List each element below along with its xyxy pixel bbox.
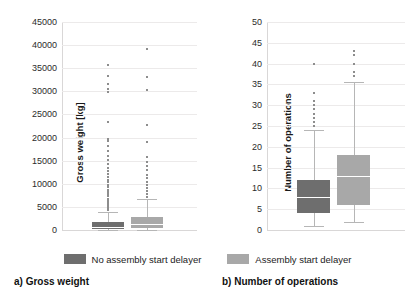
box-delayer — [131, 217, 163, 228]
gridline — [62, 207, 197, 208]
legend-label-delayer: Assembly start delayer — [255, 254, 351, 265]
outlier-point — [146, 177, 148, 179]
y-axis-tick-label: 25000 — [32, 109, 57, 119]
outlier-point — [353, 63, 355, 65]
outlier-point — [146, 161, 148, 163]
outlier-point — [107, 145, 109, 147]
gridline — [267, 126, 405, 127]
outlier-point — [107, 203, 109, 205]
outlier-point — [107, 198, 109, 200]
whisker-lower — [314, 213, 315, 225]
outlier-point — [107, 75, 109, 77]
y-axis-tick-label: 10000 — [32, 179, 57, 189]
gridline — [267, 43, 405, 44]
whisker-cap-lower — [137, 230, 156, 231]
outlier-point — [107, 88, 109, 90]
outlier-point — [107, 170, 109, 172]
gridline — [62, 22, 197, 23]
median-line — [297, 197, 330, 198]
gridline — [267, 64, 405, 65]
legend-swatch-delayer — [227, 254, 249, 264]
y-axis-line — [62, 22, 63, 230]
gridline — [62, 230, 197, 231]
gridline — [62, 161, 197, 162]
outlier-point — [107, 201, 109, 203]
y-axis-tick-label: 25 — [252, 121, 262, 131]
outlier-point — [313, 117, 315, 119]
plot-area-number-of-operations: Number of operations 0510152025303540455… — [267, 22, 405, 230]
outlier-point — [146, 156, 148, 158]
y-axis-tick-label: 30 — [252, 100, 262, 110]
whisker-cap-upper — [137, 199, 156, 200]
gridline — [62, 138, 197, 139]
outlier-point — [107, 163, 109, 165]
y-axis-tick-label: 35 — [252, 79, 262, 89]
outlier-point — [146, 48, 148, 50]
outlier-point — [313, 100, 315, 102]
whisker-cap-upper — [344, 82, 364, 83]
y-axis-tick-label: 45 — [252, 38, 262, 48]
y-axis-tick-label: 5000 — [37, 202, 57, 212]
outlier-point — [353, 71, 355, 73]
outlier-point — [146, 193, 148, 195]
whisker-cap-lower — [344, 222, 364, 223]
outlier-point — [107, 159, 109, 161]
gridline — [62, 45, 197, 46]
outlier-point — [107, 179, 109, 181]
outlier-point — [107, 207, 109, 209]
whisker-upper — [354, 82, 355, 155]
plot-area-gross-weight: Gross weight [kg] 0500010000150002000025… — [62, 22, 197, 230]
y-axis-tick-label: 20000 — [32, 133, 57, 143]
gridline — [62, 114, 197, 115]
outlier-point — [107, 173, 109, 175]
y-axis-tick-label: 30000 — [32, 86, 57, 96]
gridline — [62, 91, 197, 92]
outlier-point — [353, 54, 355, 56]
outlier-point — [313, 113, 315, 115]
caption-a: a) Gross weight — [14, 276, 89, 287]
outlier-point — [107, 205, 109, 207]
outlier-point — [353, 75, 355, 77]
outlier-point — [146, 187, 148, 189]
outlier-point — [313, 125, 315, 127]
y-axis-tick-label: 35000 — [32, 63, 57, 73]
y-axis-tick-label: 0 — [52, 225, 57, 235]
outlier-point — [313, 121, 315, 123]
outlier-point — [313, 92, 315, 94]
y-axis-tick-label: 50 — [252, 17, 262, 27]
whisker-upper — [314, 130, 315, 180]
legend: No assembly start delayer Assembly start… — [0, 250, 415, 268]
outlier-point — [313, 63, 315, 65]
whisker-cap-upper — [98, 212, 117, 213]
box-delayer — [337, 155, 370, 205]
gridline — [267, 147, 405, 148]
outlier-point — [107, 189, 109, 191]
outlier-point — [107, 83, 109, 85]
outlier-point — [107, 121, 109, 123]
outlier-point — [107, 193, 109, 195]
y-axis-title-number-of-operations: Number of operations — [282, 83, 293, 203]
y-axis-tick-label: 15 — [252, 163, 262, 173]
panel-gross-weight: Gross weight [kg] 0500010000150002000025… — [0, 0, 208, 246]
median-line — [92, 227, 124, 228]
y-axis-tick-label: 20 — [252, 142, 262, 152]
gridline — [267, 22, 405, 23]
outlier-point — [107, 184, 109, 186]
panel-number-of-operations: Number of operations 0510152025303540455… — [207, 0, 415, 246]
captions: a) Gross weight b) Number of operations — [0, 276, 415, 296]
outlier-point — [107, 140, 109, 142]
gridline — [62, 68, 197, 69]
gridline — [267, 188, 405, 189]
outlier-point — [107, 91, 109, 93]
outlier-point — [146, 141, 148, 143]
legend-swatch-no-delayer — [64, 254, 86, 264]
gridline — [267, 105, 405, 106]
y-axis-tick-label: 45000 — [32, 17, 57, 27]
median-line — [131, 224, 163, 225]
whisker-cap-lower — [304, 226, 324, 227]
whisker-cap-lower — [98, 230, 117, 231]
legend-label-no-delayer: No assembly start delayer — [92, 254, 202, 265]
gridline — [267, 209, 405, 210]
legend-item-no-delayer: No assembly start delayer — [64, 254, 202, 265]
whisker-lower — [354, 205, 355, 222]
